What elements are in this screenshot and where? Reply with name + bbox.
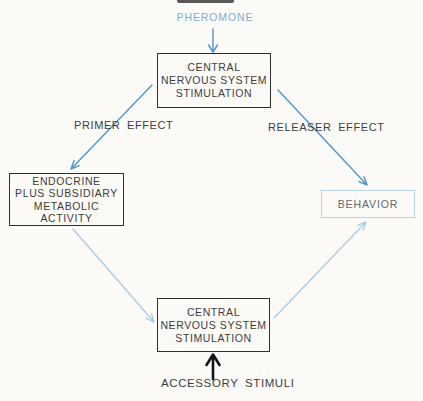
box-text-line: CENTRAL [187,61,240,74]
box-text-line: METABOLIC [34,200,99,213]
cns-to-behavior-arrow [274,222,366,318]
box-text-line: STIMULATION [176,87,252,100]
primer-effect-label: PRIMER EFFECT [74,119,173,131]
box-text-line: BEHAVIOR [338,198,399,211]
box-text-line: PLUS SUBSIDIARY [15,187,118,200]
central-nervous-system-bottom-box: CENTRAL NERVOUS SYSTEM STIMULATION [157,298,270,352]
box-text-line: STIMULATION [175,332,251,345]
releaser-effect-arrow [278,90,367,185]
box-text-line: NERVOUS SYSTEM [161,74,267,87]
accessory-stimuli-label: ACCESSORY STIMULI [161,377,295,389]
box-text-line: CENTRAL [187,306,240,319]
box-text-line: ENDOCRINE [32,175,100,188]
box-text-line: NERVOUS SYSTEM [160,319,266,332]
pheromone-arrow [209,29,218,52]
behavior-box: BEHAVIOR [321,190,415,218]
pheromone-label: PHEROMONE [175,11,255,23]
central-nervous-system-top-box: CENTRAL NERVOUS SYSTEM STIMULATION [157,53,271,108]
releaser-effect-label: RELEASER EFFECT [268,121,385,133]
endocrine-activity-box: ENDOCRINE PLUS SUBSIDIARY METABOLIC ACTI… [9,173,124,226]
box-text-line: ACTIVITY [40,212,92,225]
pheromone-effects-diagram: PHEROMONE CENTRAL NERVOUS SYSTEM STIMULA… [0,0,423,401]
endocrine-to-cns-arrow [73,229,154,322]
accessory-stimuli-arrow [207,355,220,380]
